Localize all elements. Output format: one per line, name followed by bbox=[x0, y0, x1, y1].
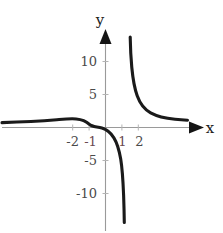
y-tick-label-5: 5 bbox=[89, 87, 97, 102]
plot-canvas: -2 -1 1 2 10 5 -5 -10 y x bbox=[0, 0, 223, 233]
x-axis-label: x bbox=[206, 119, 215, 137]
y-tick-label--5: -5 bbox=[84, 153, 97, 168]
x-tick-label-2: 2 bbox=[135, 134, 143, 149]
y-axis-label: y bbox=[95, 11, 105, 29]
x-tick-label--2: -2 bbox=[66, 134, 79, 149]
y-axis-arrowhead bbox=[100, 29, 112, 44]
y-tick-label--10: -10 bbox=[76, 186, 97, 201]
curve-right-branch bbox=[130, 37, 187, 120]
x-axis-arrowhead bbox=[189, 122, 204, 134]
y-tick-label-10: 10 bbox=[80, 54, 97, 69]
x-tick-label-1: 1 bbox=[118, 134, 126, 149]
function-plot: -2 -1 1 2 10 5 -5 -10 y x bbox=[0, 0, 223, 233]
x-tick-label--1: -1 bbox=[84, 134, 97, 149]
